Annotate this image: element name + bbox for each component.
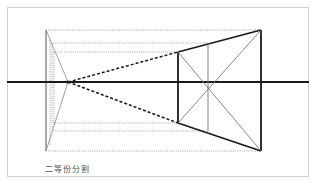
vanishing-point: [66, 80, 69, 83]
perspective-bisection-diagram: [0, 0, 315, 186]
figure-caption: 二等份分割: [45, 163, 90, 174]
diagonal-2: [178, 30, 261, 123]
trapezoid: [178, 30, 261, 151]
dotted-guides: [46, 30, 261, 151]
